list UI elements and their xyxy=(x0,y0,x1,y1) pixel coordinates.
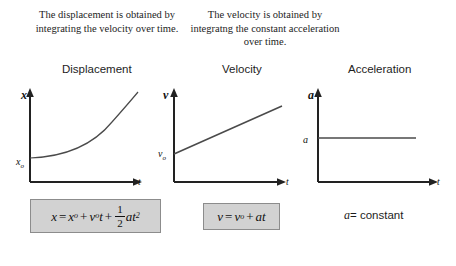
equation-box-velocity: v=vo+at xyxy=(203,203,280,230)
displacement-curve xyxy=(30,92,138,158)
y-axis-arrowhead xyxy=(26,88,34,97)
x-axis-label-acceleration: t xyxy=(437,177,440,187)
caption-displacement: The displacement is obtained by integrat… xyxy=(34,8,180,35)
x-axis-label-displacement: t xyxy=(138,177,141,187)
equation-box-displacement: x=xo+vot+12at2 xyxy=(30,199,161,233)
chart-displacement xyxy=(12,86,152,194)
eq-term3-exponent: 2 xyxy=(136,212,140,220)
heading-acceleration: Acceleration xyxy=(348,63,411,75)
eq-plus-1: + xyxy=(244,210,255,223)
eq-fraction-one-half: 12 xyxy=(115,204,125,229)
equation-displacement: x=xo+vot+12at2 xyxy=(51,204,140,229)
intercept-label-x0: xo xyxy=(16,156,24,170)
y-axis-label-displacement: x xyxy=(21,88,27,103)
intercept-label-v0: vo xyxy=(158,148,166,162)
chart-velocity xyxy=(152,86,297,194)
eq-equals: = xyxy=(57,210,68,223)
chart-displacement-svg xyxy=(12,86,152,194)
eq-term3: at xyxy=(126,210,136,223)
y-axis-label-velocity: v xyxy=(163,88,168,103)
velocity-line xyxy=(174,106,282,154)
heading-velocity: Velocity xyxy=(222,63,262,75)
chart-acceleration xyxy=(298,86,450,194)
eq-plus-2: + xyxy=(103,210,114,223)
x-axis-label-velocity: t xyxy=(286,177,289,187)
eq-plus-1: + xyxy=(78,210,89,223)
heading-displacement: Displacement xyxy=(62,63,132,75)
x-axis-arrowhead xyxy=(277,178,286,186)
eq-term2: at xyxy=(256,210,266,223)
eq-equals: = xyxy=(223,210,234,223)
fraction-denominator: 2 xyxy=(115,216,125,229)
eq-acceleration-text: = constant xyxy=(350,209,403,221)
equation-velocity: v=vo+at xyxy=(217,210,265,223)
chart-acceleration-svg xyxy=(298,86,450,194)
chart-velocity-svg xyxy=(152,86,297,194)
fraction-numerator: 1 xyxy=(115,204,125,216)
intercept-v0-sub: o xyxy=(162,154,166,162)
intercept-x0-sub: o xyxy=(20,162,24,170)
equation-acceleration: a= constant xyxy=(344,208,403,223)
y-axis-arrowhead xyxy=(170,88,178,97)
intercept-label-a: a xyxy=(303,134,308,145)
y-axis-arrowhead xyxy=(314,88,322,97)
slide-canvas: The displacement is obtained by integrat… xyxy=(0,0,456,266)
caption-velocity: The velocity is obtained by integratng t… xyxy=(186,8,344,49)
y-axis-label-acceleration: a xyxy=(308,88,314,103)
